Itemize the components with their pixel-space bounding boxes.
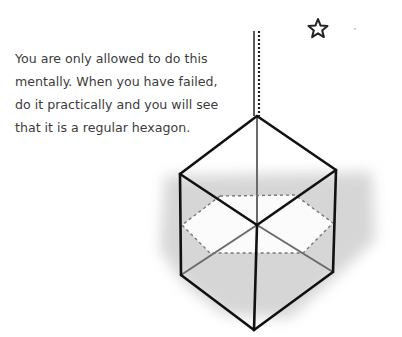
string-icon (254, 31, 259, 116)
star-icon (309, 19, 328, 37)
cube-hexagon-figure (0, 0, 402, 337)
